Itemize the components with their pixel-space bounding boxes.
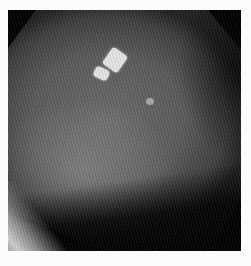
radiograph-image: Grayscale fluoroscopy image [8, 10, 241, 251]
small-round-opacity [146, 98, 154, 105]
